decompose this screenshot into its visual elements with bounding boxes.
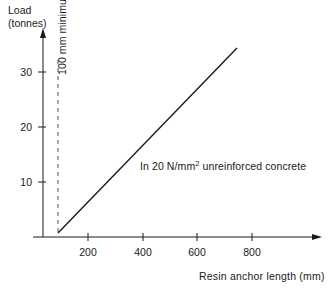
reference-line-label-minimum-bond-length: 100 mm minimum bond length	[56, 0, 69, 75]
y-axis-title-line1: Load	[8, 4, 47, 17]
y-axis-title: Load (tonnes)	[8, 4, 47, 30]
annotation-text-before: In 20 N/mm	[140, 160, 195, 172]
y-tick-label-20: 20	[8, 121, 32, 134]
x-tick-label-400: 400	[128, 246, 158, 259]
x-tick-label-800: 800	[237, 246, 267, 259]
x-axis-arrow-icon	[312, 234, 322, 240]
x-tick-label-600: 600	[182, 246, 212, 259]
chart-figure: Load (tonnes) 10 20 30 200 400 600 800 R…	[0, 0, 333, 293]
annotation-concrete-grade: In 20 N/mm2 unreinforced concrete	[140, 160, 306, 173]
y-tick-label-30: 30	[8, 66, 32, 79]
chart-plot-area	[0, 0, 333, 293]
annotation-text-after: unreinforced concrete	[200, 160, 307, 172]
data-series-line	[58, 48, 237, 233]
x-axis-title: Resin anchor length (mm)	[199, 270, 325, 283]
y-axis-title-line2: (tonnes)	[8, 17, 47, 30]
x-tick-label-200: 200	[73, 246, 103, 259]
y-tick-label-10: 10	[8, 176, 32, 189]
